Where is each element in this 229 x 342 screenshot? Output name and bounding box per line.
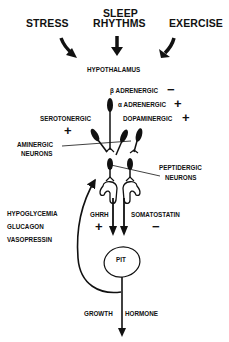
feedback-hypoglycemia: HYPOGLYCEMIA (7, 211, 58, 217)
aminergic-label-line2: NEURONS (21, 151, 53, 157)
dopaminergic-sign: + (182, 111, 190, 124)
serotonergic-label: SEROTONERGIC (40, 116, 91, 122)
stress-arrow-icon (61, 38, 77, 58)
alpha-sign: + (174, 97, 182, 110)
input-sleep-line2: RHYTHMS (93, 18, 146, 29)
sleep-arrow-icon (111, 36, 123, 56)
serotonergic-sign: + (64, 124, 72, 137)
somatostatin-label: SOMATOSTATIN (131, 212, 180, 218)
output-growth-label: GROWTH (84, 311, 113, 317)
feedback-glucagon: GLUCAGON (7, 224, 44, 230)
aminergic-neuron-right-icon (134, 127, 144, 152)
exercise-arrow-icon (159, 38, 174, 58)
feedback-vasopressin: VASOPRESSIN (7, 237, 52, 243)
ghrh-label: GHRH (90, 212, 109, 218)
alpha-adrenergic-label: α ADRENERGIC (118, 102, 166, 108)
aminergic-label-line1: AMINERGIC (17, 142, 53, 148)
pituitary-label: PIT (116, 257, 126, 263)
output-hormone-label: HORMONE (125, 311, 158, 317)
peptidergic-label-line2: NEURONS (165, 175, 197, 181)
beta-adrenergic-label: β ADRENERGIC (110, 88, 158, 94)
peptidergic-neuron-right-icon (120, 158, 140, 236)
input-exercise: EXERCISE (169, 18, 223, 29)
somatostatin-sign: − (152, 220, 160, 233)
ghrh-sign: + (95, 220, 103, 233)
peptidergic-label-line1: PEPTIDERGIC (159, 165, 202, 171)
gh-arrow-icon (118, 328, 126, 337)
peptidergic-leader-line (111, 165, 160, 176)
dopaminergic-label: DOPAMINERGIC (123, 116, 172, 122)
input-stress: STRESS (26, 18, 69, 29)
beta-sign: − (167, 83, 175, 96)
aminergic-neuron-left-icon (89, 127, 107, 152)
hypothalamus-label: HYPOTHALAMUS (87, 67, 140, 73)
